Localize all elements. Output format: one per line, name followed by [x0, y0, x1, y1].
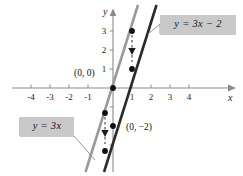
callout-line-y-equals-3x: y = 3x [20, 117, 74, 136]
point-1-3 [129, 28, 135, 34]
x-axis [12, 85, 236, 92]
point-1-1 [129, 66, 135, 72]
point-label-y-intercept: (0, −2) [126, 122, 152, 132]
point-dark-lower [102, 148, 108, 154]
y-tick-label-1: 1 [100, 64, 108, 74]
shift-arrow-upper [128, 35, 135, 62]
point-gray-lower [102, 110, 108, 116]
y-tick-label-2: 2 [100, 45, 108, 55]
x-axis-label: x [228, 92, 232, 103]
x-tick-label-neg4: -4 [25, 92, 37, 102]
x-tick-label-neg3: -3 [44, 92, 56, 102]
x-tick-label-4: 4 [185, 92, 193, 102]
y-axis-label: y [103, 6, 107, 17]
y-tick-label-3: 3 [100, 26, 108, 36]
x-tick-label-2: 2 [147, 92, 155, 102]
point-0-minus2 [110, 123, 116, 129]
graph-figure: y x -4 -3 -2 -1 1 2 3 4 3 2 1 (0, 0) (0,… [0, 0, 243, 176]
x-tick-label-1: 1 [128, 92, 136, 102]
point-label-origin: (0, 0) [74, 68, 95, 78]
x-tick-label-3: 3 [166, 92, 174, 102]
callout-line-y-equals-3x-minus-2: y = 3x − 2 [160, 15, 236, 34]
point-0-0 [110, 85, 116, 91]
x-tick-label-neg2: -2 [63, 92, 75, 102]
x-tick-label-neg1: -1 [82, 92, 94, 102]
